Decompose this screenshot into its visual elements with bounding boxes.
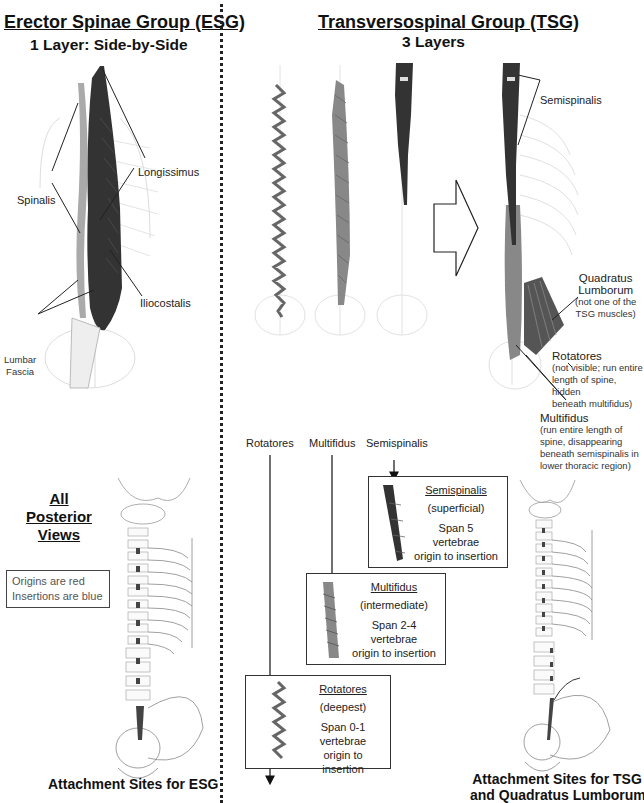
detail-box-rotatores: Rotatores (deepest) Span 0-1 vertebrae o… [245, 675, 391, 769]
rotatores-unit: vertebrae [302, 734, 384, 748]
quadratus-lumborum-muscle [524, 277, 564, 355]
annot-quadratus-note2: TSG muscles) [575, 308, 636, 320]
annot-quadratus-title2: Lumborum [575, 284, 636, 296]
annot-quadratus-note1: (not one of the [575, 296, 636, 308]
annot-rotatores-title: Rotatores [552, 350, 644, 362]
detail-box-semispinalis: Semispinalis (superficial) Span 5 verteb… [368, 476, 508, 568]
tsg-subtitle: 3 Layers [402, 33, 465, 51]
tsg-skeleton-illustration [520, 480, 620, 780]
legend-origins: Origins are red [12, 574, 104, 589]
multifidus-name: Multifidus [349, 580, 439, 594]
annot-multifidus-note2: spine, disappearing [540, 436, 639, 448]
annot-multifidus-title: Multifidus [540, 412, 639, 424]
rotatores-span: Span 0-1 [302, 720, 384, 734]
column-label-semispinalis: Semispinalis [366, 437, 428, 449]
semispinalis-depth: (superficial) [411, 501, 501, 515]
views-heading-line2: Posterior [24, 508, 94, 526]
label-lumbar-fascia: Lumbar Fascia [4, 354, 36, 378]
esg-skeleton-illustration [108, 478, 208, 778]
semispinalis-thumbnail [379, 483, 409, 563]
legend-insertions: Insertions are blue [12, 589, 104, 604]
label-iliocostalis: Iliocostalis [140, 297, 191, 309]
label-lumbar-fascia-line2: Fascia [4, 366, 36, 378]
rotatores-muscle [274, 85, 284, 317]
semispinalis-muscle [395, 63, 413, 205]
tsg-caption-line2: and Quadratus Lumborum [470, 787, 644, 803]
semispinalis-info: Semispinalis (superficial) Span 5 verteb… [411, 483, 501, 563]
multifidus-span: Span 2-4 [349, 618, 439, 632]
tsg-caption: Attachment Sites for TSG and Quadratus L… [470, 771, 644, 803]
semispinalis-unit: vertebrae [411, 535, 501, 549]
detail-box-multifidus: Multifidus (intermediate) Span 2-4 verte… [306, 573, 446, 665]
multifidus-unit: vertebrae [349, 632, 439, 646]
multifidus-thumbnail [317, 580, 347, 660]
color-legend: Origins are red Insertions are blue [6, 570, 110, 608]
rotatores-depth: (deepest) [302, 700, 384, 714]
annot-multifidus: Multifidus (run entire length of spine, … [540, 412, 639, 472]
annot-quadratus-lumborum: Quadratus Lumborum (not one of the TSG m… [575, 272, 636, 320]
column-label-multifidus: Multifidus [309, 437, 355, 449]
tsg-caption-line1: Attachment Sites for TSG [470, 771, 644, 787]
esg-caption: Attachment Sites for ESG [48, 776, 218, 792]
views-heading: All Posterior Views [24, 490, 94, 544]
esg-title: Erector Spinae Group (ESG) [4, 12, 245, 33]
semispinalis-name: Semispinalis [411, 483, 501, 497]
tsg-title: Transversospinal Group (TSG) [318, 12, 579, 33]
esg-subtitle: 1 Layer: Side-by-Side [30, 36, 188, 54]
rotatores-name: Rotatores [302, 682, 384, 696]
annot-semispinalis: Semispinalis [540, 94, 602, 106]
annot-rotatores: Rotatores (not visible; run entire lengt… [552, 350, 644, 410]
rotatores-note: origin to insertion [302, 748, 384, 776]
label-lumbar-fascia-line1: Lumbar [4, 354, 36, 366]
annot-multifidus-note3: beneath semispinalis in [540, 448, 639, 460]
right-arrow-icon [432, 180, 482, 280]
semispinalis-note: origin to insertion [411, 549, 501, 563]
erector-spinae-illustration [0, 58, 220, 398]
multifidus-info: Multifidus (intermediate) Span 2-4 verte… [349, 580, 439, 660]
panel-divider [220, 4, 223, 803]
semispinalis-span: Span 5 [411, 521, 501, 535]
annot-rotatores-note2: length of spine, hidden [552, 374, 644, 398]
rotatores-thumbnail [264, 680, 304, 764]
multifidus-muscle [332, 80, 350, 305]
annot-multifidus-note1: (run entire length of [540, 424, 639, 436]
annot-multifidus-note4: lower thoracic region) [540, 460, 639, 472]
multifidus-note: origin to insertion [349, 646, 439, 660]
annot-rotatores-note3: beneath multifidus) [552, 398, 644, 410]
annot-rotatores-note1: (not visible; run entire [552, 362, 644, 374]
multifidus-depth: (intermediate) [349, 598, 439, 612]
views-heading-line1: All [24, 490, 94, 508]
rotatores-info: Rotatores (deepest) Span 0-1 vertebrae o… [302, 682, 384, 776]
label-longissimus: Longissimus [138, 166, 199, 178]
views-heading-line3: Views [24, 526, 94, 544]
column-label-rotatores: Rotatores [246, 437, 294, 449]
label-spinalis: Spinalis [17, 194, 56, 206]
annot-quadratus-title1: Quadratus [575, 272, 636, 284]
